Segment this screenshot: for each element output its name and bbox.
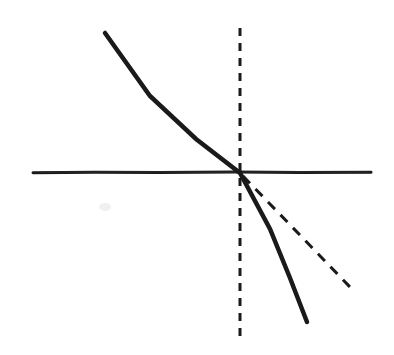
figure-background (0, 0, 394, 355)
figure-root (0, 0, 394, 355)
paper-smudge (99, 203, 111, 211)
sketch-canvas (0, 0, 394, 355)
horizontal-axis-overstroke (40, 172, 368, 173)
